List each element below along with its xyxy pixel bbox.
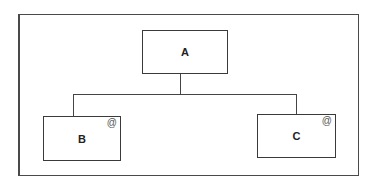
at-marker-icon: @ (322, 115, 332, 127)
connector-a-vertical (180, 74, 181, 95)
connector-horizontal (73, 94, 297, 95)
node-a: A (142, 30, 228, 74)
node-b: B @ (43, 116, 121, 161)
connector-c-vertical (296, 94, 297, 114)
node-c-label: C (293, 130, 301, 142)
connector-b-vertical (73, 94, 74, 116)
node-c: C @ (257, 114, 336, 158)
node-a-label: A (181, 46, 189, 58)
node-b-label: B (78, 133, 86, 145)
at-marker-icon: @ (107, 117, 117, 129)
